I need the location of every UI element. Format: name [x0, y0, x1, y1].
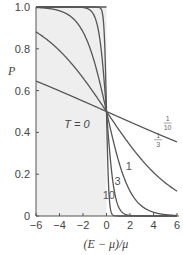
y-tick-label: 0.4: [15, 126, 30, 138]
y-tick-label: 0.2: [15, 168, 30, 180]
x-axis-label: (E − μ)/μ: [84, 237, 129, 251]
curve-labels: 103113110: [103, 115, 172, 201]
curve-label-3: 3: [115, 175, 121, 187]
x-tick-label: 0: [103, 219, 109, 231]
y-tick-label: 0.8: [15, 43, 30, 55]
x-tick-label: −6: [30, 219, 43, 231]
curve-label-denominator: 3: [156, 141, 160, 148]
curve-label-10: 10: [103, 189, 115, 201]
x-tick-label: 2: [127, 219, 133, 231]
curve-label-1: 1: [126, 160, 132, 172]
shaded-step-region: [36, 7, 107, 216]
t-zero-annotation: T = 0: [64, 118, 90, 130]
x-tick-label: −2: [77, 219, 90, 231]
x-tick-label: −4: [53, 219, 66, 231]
fermi-dirac-chart: −6−4−20246 00.20.40.60.81.0 103113110 P …: [0, 0, 183, 255]
x-tick-label: 6: [174, 219, 180, 231]
y-tick-label: 1.0: [15, 1, 30, 13]
y-tick-label: 0.6: [15, 85, 30, 97]
y-tick-label: 0: [24, 210, 30, 222]
curve-label-denominator: 10: [164, 124, 172, 131]
curve-label-numerator: 1: [166, 115, 170, 122]
x-tick-label: 4: [150, 219, 156, 231]
curve-label-numerator: 1: [156, 132, 160, 139]
y-axis-label: P: [7, 64, 16, 78]
y-ticks: 00.20.40.60.81.0: [15, 1, 39, 222]
